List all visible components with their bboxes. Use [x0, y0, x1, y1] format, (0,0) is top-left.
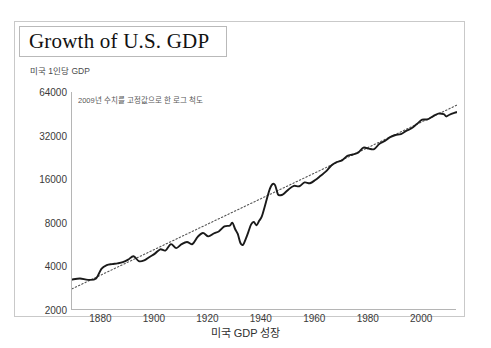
- y-tick-label: 64000: [39, 87, 67, 98]
- figure-frame: Growth of U.S. GDP 미국 1인당 GDP 6400032000…: [14, 21, 465, 317]
- plot-subtitle: 2009년 수치를 고정값으로 한 로그 척도: [78, 94, 203, 105]
- y-tick-label: 8000: [45, 217, 67, 228]
- y-tick-label: 32000: [39, 130, 67, 141]
- x-tick-label: 1980: [357, 313, 379, 324]
- y-axis-caption: 미국 1인당 GDP: [30, 64, 90, 76]
- x-tick-label: 1900: [143, 313, 165, 324]
- y-tick-label: 4000: [45, 261, 67, 272]
- x-tick-label: 1920: [196, 313, 218, 324]
- x-tick-label: 1940: [250, 313, 272, 324]
- x-tick-label: 2000: [410, 313, 432, 324]
- x-tick-label: 1880: [89, 313, 111, 324]
- plot-area: 2009년 수치를 고정값으로 한 로그 척도: [71, 92, 456, 310]
- trend-line: [72, 105, 457, 289]
- x-tick-label: 1960: [303, 313, 325, 324]
- gdp-line: [72, 112, 457, 280]
- chart-title-box: Growth of U.S. GDP: [19, 26, 227, 57]
- page-title: Growth of U.S. GDP: [20, 31, 209, 52]
- y-axis-tick-labels: 640003200016000800040002000: [21, 92, 67, 310]
- chart-canvas: [72, 92, 457, 310]
- figure-page: Growth of U.S. GDP 미국 1인당 GDP 6400032000…: [0, 0, 491, 348]
- y-tick-label: 2000: [45, 305, 67, 316]
- y-tick-label: 16000: [39, 174, 67, 185]
- figure-caption: 미국 GDP 성장: [0, 324, 491, 340]
